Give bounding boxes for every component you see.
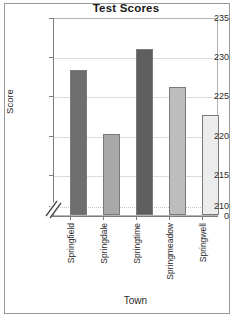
y-tick-label-230: 230	[188, 52, 234, 62]
bar-springwell	[202, 115, 219, 215]
x-tick-label-springtime: Springtime	[132, 223, 142, 264]
x-tick-label-springdale: Springdale	[99, 223, 109, 264]
y-tick-label-215: 215	[188, 170, 234, 180]
y-tick-label-225: 225	[188, 91, 234, 101]
y-axis-title: Score	[4, 62, 15, 142]
y-tick-mark-220	[49, 136, 53, 137]
y-tick-mark-210	[49, 206, 53, 207]
y-tick-mark-215	[49, 175, 53, 176]
y-tick-label-220: 220	[188, 131, 234, 141]
x-tick-label-springfield: Springfield	[66, 223, 76, 263]
x-tick-mark-springwell	[202, 217, 203, 220]
x-tick-mark-springmeadow	[169, 217, 170, 220]
bar-springtime	[136, 49, 153, 215]
x-tick-label-springmeadow: Springmeadow	[165, 223, 175, 280]
x-tick-label-springwell: Springwell	[198, 223, 208, 262]
y-tick-label-210: 210	[188, 201, 234, 211]
y-tick-mark-235	[49, 18, 53, 19]
x-axis-title: Town	[53, 295, 218, 306]
y-tick-label-235: 235	[188, 13, 234, 23]
bar-springmeadow	[169, 87, 186, 215]
bar-springdale	[103, 134, 120, 215]
plot-area	[53, 18, 218, 216]
y-tick-mark-225	[49, 96, 53, 97]
x-tick-mark-springfield	[70, 217, 71, 220]
x-tick-mark-springdale	[103, 217, 104, 220]
y-axis-line	[53, 18, 54, 216]
y-tick-mark-230	[49, 57, 53, 58]
x-tick-mark-springtime	[136, 217, 137, 220]
bar-springfield	[70, 70, 87, 215]
chart-figure: Test Scores 235 230 225 220 215 210 0 Sc…	[0, 0, 234, 325]
